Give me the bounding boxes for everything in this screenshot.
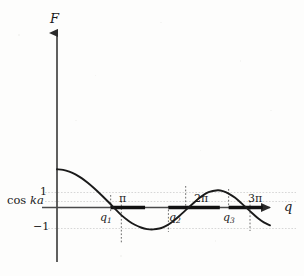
x-tick-q2: q2: [169, 212, 181, 223]
plot-canvas: [0, 0, 304, 276]
y-tick-cos-ka: cos ka: [7, 195, 44, 207]
x-tick-3pi: 3π: [248, 193, 262, 204]
y-axis-label: F: [50, 12, 59, 25]
q2-sub: 2: [176, 216, 181, 225]
q1-base: q: [100, 211, 107, 224]
q2-base: q: [169, 211, 176, 224]
q3-sub: 3: [230, 216, 235, 225]
cos-text: cos: [7, 193, 26, 207]
axes-group: [42, 33, 270, 262]
x-tick-2pi: 2π: [194, 193, 208, 204]
dispersion-curve: [57, 169, 270, 229]
x-axis-label: q: [284, 200, 292, 213]
ka-text: ka: [30, 193, 44, 207]
q3-base: q: [223, 211, 230, 224]
kronig-penney-figure: F q 1 cos ka −1 q1 π q2 2π q3 3π: [0, 0, 304, 276]
y-tick-minus-one: −1: [33, 221, 49, 232]
x-tick-q1: q1: [100, 212, 112, 223]
q1-sub: 1: [107, 216, 112, 225]
x-tick-q3: q3: [223, 212, 235, 223]
x-tick-pi: π: [119, 193, 126, 204]
